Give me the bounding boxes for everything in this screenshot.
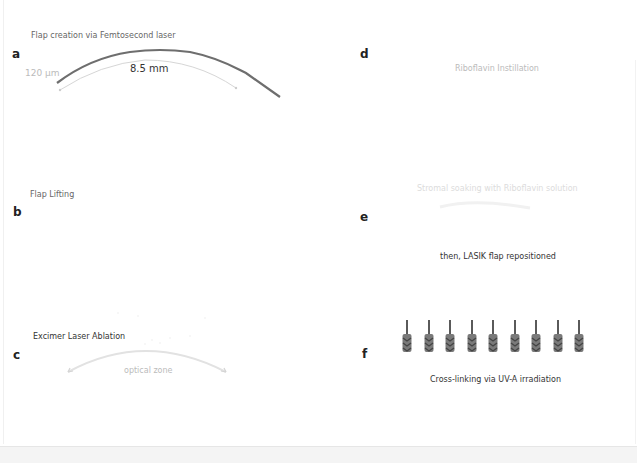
- uv-arrow-down-icon: [401, 320, 413, 354]
- uv-arrow-down-icon: [573, 320, 585, 354]
- uv-arrow-down-icon: [423, 320, 435, 354]
- uv-arrow-down-icon: [530, 320, 542, 354]
- uv-arrow-down-icon: [487, 320, 499, 354]
- panel-e-letter: e: [360, 210, 368, 224]
- uv-arrow-down-icon: [466, 320, 478, 354]
- panel-f-letter: f: [362, 347, 367, 361]
- uv-arrow-down-icon: [444, 320, 456, 354]
- panel-f-title: Cross-linking via UV-A irradiation: [430, 375, 561, 384]
- panel-e-subtitle: then, LASIK flap repositioned: [440, 252, 556, 261]
- uv-arrow-down-icon: [509, 320, 521, 354]
- bottom-strip: [0, 446, 637, 463]
- uv-arrow-down-icon: [552, 320, 564, 354]
